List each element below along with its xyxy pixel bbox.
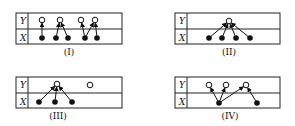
y-element-open-circle — [39, 17, 45, 23]
row-label-y: Y — [179, 16, 186, 26]
y-element-open-circle — [78, 17, 84, 23]
row-label-x: X — [19, 33, 27, 43]
x-element-filled-circle — [254, 100, 260, 106]
y-element-open-circle — [87, 82, 93, 88]
panel-iii: YX(III) — [16, 77, 122, 121]
y-element-open-circle — [226, 18, 232, 24]
x-element-filled-circle — [233, 35, 239, 41]
y-element-open-circle — [57, 17, 63, 23]
bipartite-mapping-diagram: YX(I)YX(II)YX(III)YX(IV) — [0, 0, 295, 126]
x-element-filled-circle — [52, 99, 58, 105]
row-label-y: Y — [20, 80, 27, 90]
mapping-arrow — [211, 88, 218, 101]
mapping-arrow — [220, 88, 225, 101]
panel-caption: (I) — [64, 47, 75, 57]
x-element-filled-circle — [247, 35, 253, 41]
panel-i: YX(I) — [16, 13, 122, 57]
x-element-filled-circle — [94, 35, 100, 41]
y-element-open-circle — [223, 82, 229, 88]
x-element-filled-circle — [219, 35, 225, 41]
panel-caption: (III) — [49, 111, 67, 121]
panel-iv: YX(IV) — [175, 77, 280, 121]
row-label-x: X — [19, 97, 27, 107]
mapping-arrow — [211, 23, 227, 36]
x-element-filled-circle — [69, 99, 75, 105]
mapping-arrow — [248, 88, 256, 101]
y-element-open-circle — [54, 81, 60, 87]
panel-ii: YX(II) — [175, 13, 280, 57]
mapping-arrow — [95, 23, 96, 35]
mapping-arrow — [231, 23, 248, 36]
mapping-arrow — [55, 87, 56, 99]
row-label-x: X — [178, 97, 186, 107]
x-element-filled-circle — [39, 35, 45, 41]
row-label-y: Y — [20, 16, 27, 26]
y-element-open-circle — [92, 17, 98, 23]
x-element-filled-circle — [206, 35, 212, 41]
x-element-filled-circle — [36, 99, 42, 105]
y-element-open-circle — [243, 82, 249, 88]
x-element-filled-circle — [216, 100, 222, 106]
x-element-filled-circle — [65, 35, 71, 41]
row-label-x: X — [178, 33, 186, 43]
y-element-open-circle — [206, 82, 212, 88]
panel-caption: (IV) — [221, 111, 238, 121]
x-element-filled-circle — [82, 35, 88, 41]
panel-caption: (II) — [222, 47, 236, 57]
row-label-y: Y — [179, 80, 186, 90]
x-element-filled-circle — [53, 35, 59, 41]
